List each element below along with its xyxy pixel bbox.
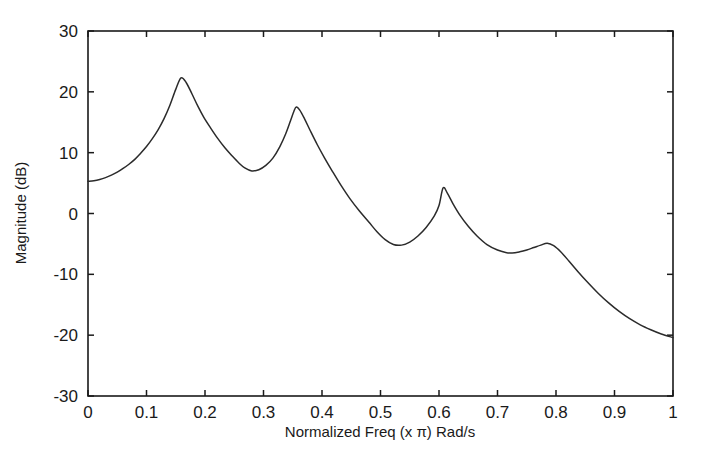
x-tick-label: 0.2: [193, 403, 217, 422]
x-axis-title: Normalized Freq (x π) Rad/s: [285, 423, 475, 440]
x-tick-label: 0: [83, 403, 92, 422]
x-tick-label: 0.8: [544, 403, 568, 422]
figure-background: [0, 0, 705, 461]
x-tick-label: 0.5: [369, 403, 393, 422]
x-tick-label: 0.4: [310, 403, 334, 422]
y-tick-label: -30: [53, 387, 78, 406]
x-tick-label: 0.9: [603, 403, 627, 422]
y-axis-title: Magnitude (dB): [12, 162, 29, 265]
y-tick-label: 10: [59, 144, 78, 163]
x-tick-label: 0.3: [252, 403, 276, 422]
y-tick-label: -10: [53, 265, 78, 284]
y-tick-label: 0: [69, 205, 78, 224]
x-tick-label: 0.7: [486, 403, 510, 422]
y-tick-label: 20: [59, 83, 78, 102]
y-tick-label: 30: [59, 22, 78, 41]
x-tick-label: 0.6: [427, 403, 451, 422]
x-tick-label: 0.1: [135, 403, 159, 422]
chart-canvas: 00.10.20.30.40.50.60.70.80.91 3020100-10…: [0, 0, 705, 461]
y-tick-label: -20: [53, 326, 78, 345]
magnitude-response-figure: 00.10.20.30.40.50.60.70.80.91 3020100-10…: [0, 0, 705, 461]
x-tick-label: 1: [668, 403, 677, 422]
